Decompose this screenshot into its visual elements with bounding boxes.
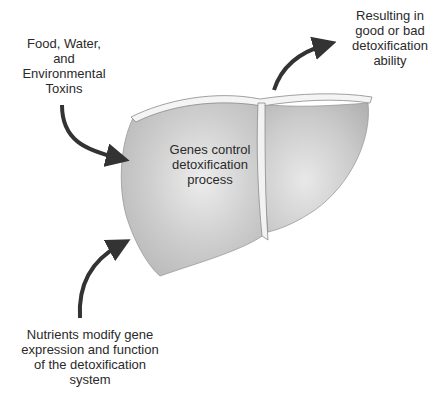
center-label: Genes control detoxification process — [165, 142, 255, 187]
output-label-line: detoxification — [340, 38, 440, 53]
nutrients-label-line: of the detoxification — [10, 357, 170, 372]
output-label-line: good or bad — [340, 23, 440, 38]
center-label-line: Genes control — [165, 142, 255, 157]
liver-left-lobe — [121, 100, 268, 276]
nutrients-arrow — [80, 245, 120, 318]
nutrients-label-line: expression and function — [10, 342, 170, 357]
center-label-line: process — [165, 172, 255, 187]
nutrients-label: Nutrients modify gene expression and fun… — [10, 327, 170, 387]
input-label-line: Food, Water, — [14, 36, 114, 51]
input-label-line: Toxins — [14, 81, 114, 96]
nutrients-label-line: system — [10, 372, 170, 387]
liver-right-lobe — [262, 103, 368, 232]
output-label: Resulting in good or bad detoxification … — [340, 8, 440, 68]
nutrients-label-line: Nutrients modify gene — [10, 327, 170, 342]
output-label-line: ability — [340, 53, 440, 68]
output-label-line: Resulting in — [340, 8, 440, 23]
input-label-line: Environmental — [14, 66, 114, 81]
input-label-line: and — [14, 51, 114, 66]
input-label: Food, Water, and Environmental Toxins — [14, 36, 114, 96]
output-arrow — [274, 45, 325, 90]
center-label-line: detoxification — [165, 157, 255, 172]
input-arrow — [62, 105, 118, 158]
